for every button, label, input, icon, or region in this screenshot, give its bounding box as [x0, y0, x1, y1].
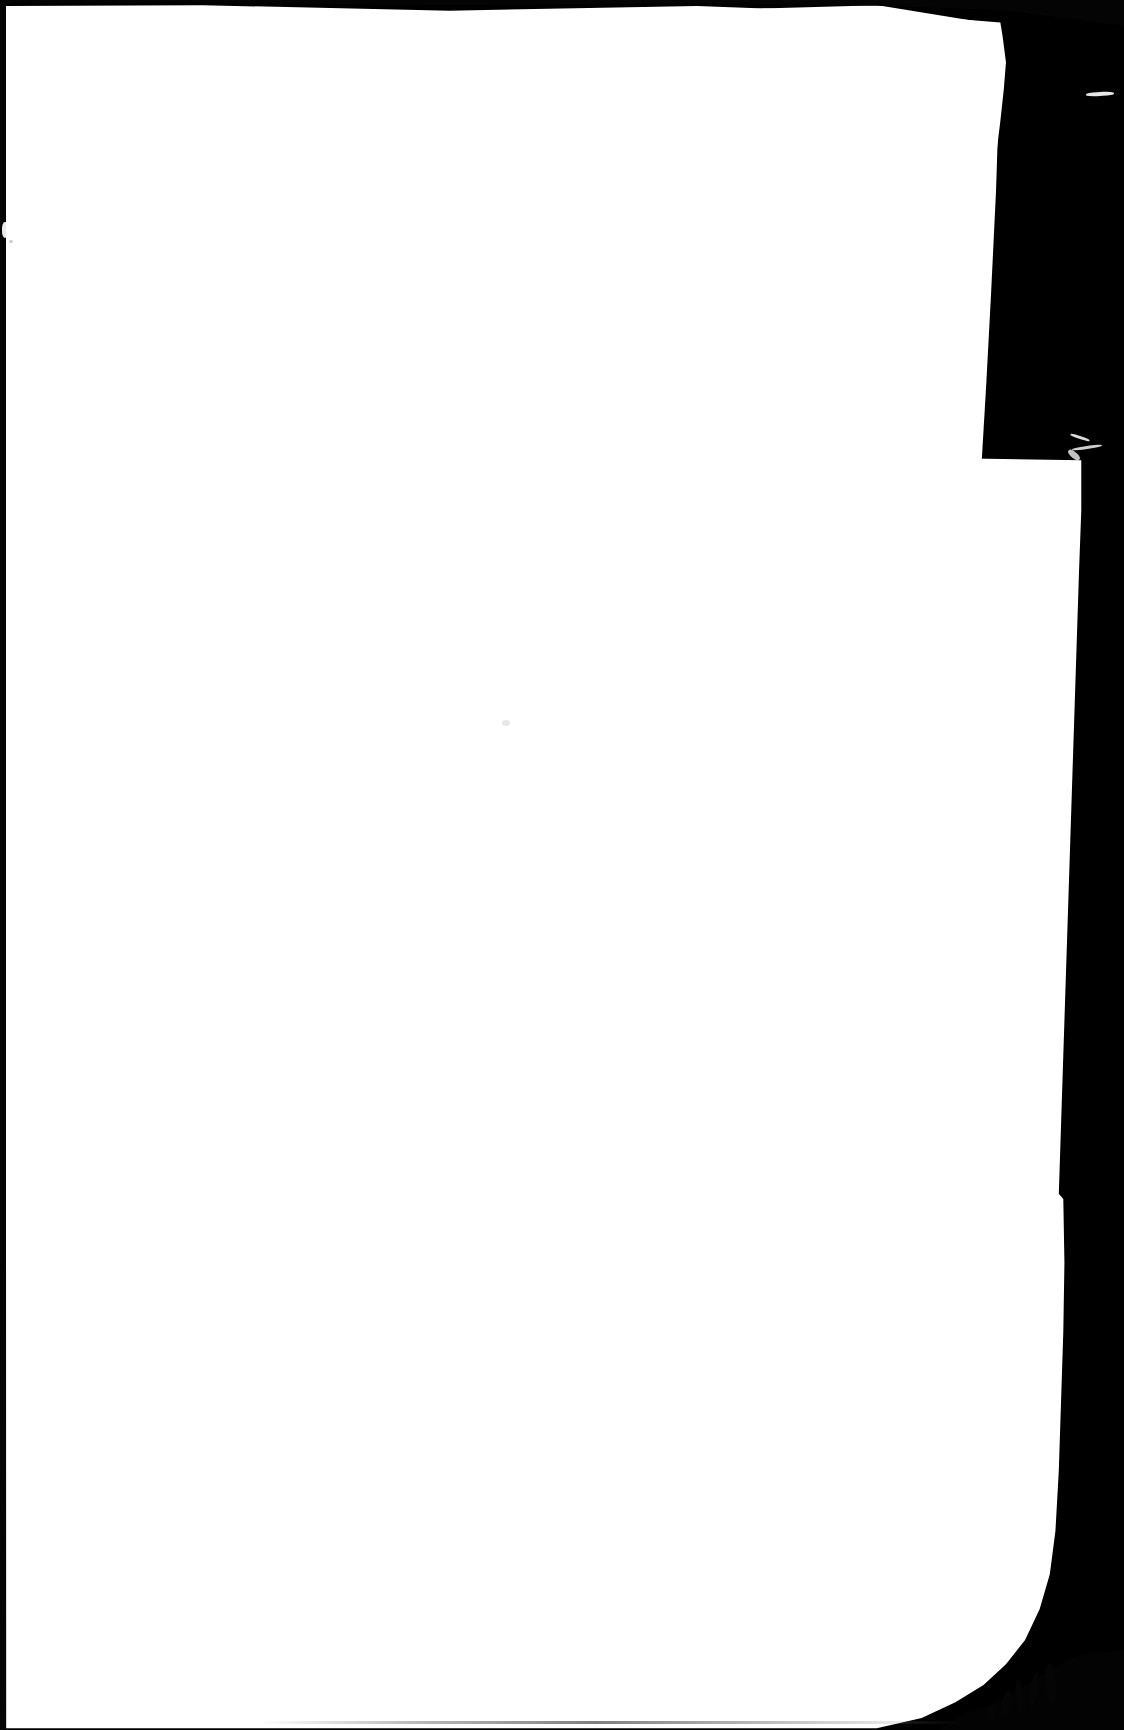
right-edge-fibre-top: [1086, 91, 1114, 96]
right-edge-fibre-mid-b: [1072, 444, 1102, 451]
right-edge-fibre-mid-a: [1070, 433, 1090, 442]
left-edge-speck-artifact: [9, 240, 13, 243]
scanner-background-left-gutter: [0, 0, 6, 1730]
bottom-edge-shadow-line: [260, 1721, 960, 1724]
scanned-page-canvas: [0, 0, 1124, 1730]
right-edge-fibre-mid-c: [1067, 448, 1082, 462]
page-content-area: [90, 140, 984, 1580]
